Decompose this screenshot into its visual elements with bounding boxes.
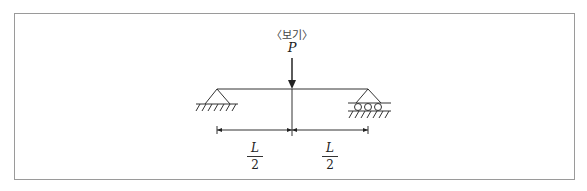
dimension-right-numerator: L: [320, 141, 340, 155]
pin-support-icon: [196, 89, 238, 111]
load-arrow-icon: [288, 58, 296, 89]
beam-diagram: [0, 0, 587, 191]
dimension-right-denominator: 2: [320, 158, 340, 172]
dimension-left-denominator: 2: [245, 158, 265, 172]
fraction-bar: [247, 156, 263, 157]
dimension-left-numerator: L: [245, 141, 265, 155]
fraction-bar: [322, 156, 338, 157]
dimension-left-label: L 2: [245, 141, 265, 172]
dimension-right-label: L 2: [320, 141, 340, 172]
roller-support-icon: [348, 89, 391, 118]
